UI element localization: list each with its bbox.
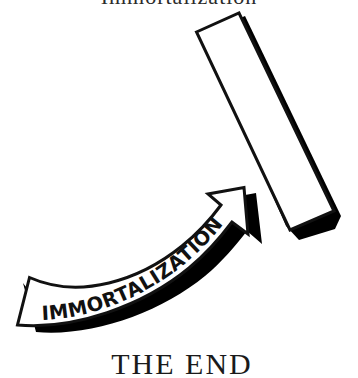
immortalization-arrow-group: IMMORTALIZATION — [18, 188, 263, 333]
the-end-caption: THE END — [0, 348, 358, 378]
immortalization-diagram-svg: IMMORTALIZATION — [0, 0, 358, 378]
growth-bar-group — [197, 13, 342, 240]
figure-canvas: Immortalization IMMORTALIZATION THE END — [0, 0, 358, 378]
